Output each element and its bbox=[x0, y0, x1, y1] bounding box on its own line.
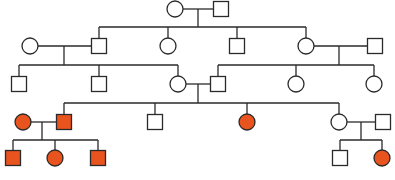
affected-female-iv-1 bbox=[15, 114, 31, 130]
affected-female-iv-4 bbox=[239, 114, 255, 130]
unaffected-male-iii-2 bbox=[92, 77, 107, 92]
affected-male-v-3 bbox=[91, 151, 106, 166]
affected-female-v-2 bbox=[47, 150, 63, 166]
unaffected-male-ii-6 bbox=[368, 39, 383, 54]
unaffected-female-ii-1 bbox=[22, 38, 38, 54]
unaffected-female-i-1 bbox=[167, 1, 183, 17]
unaffected-female-ii-5 bbox=[298, 38, 314, 54]
unaffected-female-iii-6 bbox=[366, 76, 382, 92]
unaffected-female-iii-5 bbox=[288, 76, 304, 92]
unaffected-female-ii-3 bbox=[160, 38, 176, 54]
unaffected-male-iv-3 bbox=[148, 115, 163, 130]
affected-male-iv-2 bbox=[57, 115, 72, 130]
unaffected-male-ii-2 bbox=[92, 39, 107, 54]
unaffected-male-v-4 bbox=[333, 151, 348, 166]
unaffected-female-iv-5 bbox=[331, 114, 347, 130]
unaffected-male-i-2 bbox=[214, 2, 229, 17]
pedigree-chart bbox=[0, 0, 395, 180]
unaffected-male-iii-1 bbox=[12, 77, 27, 92]
unaffected-male-iv-6 bbox=[376, 115, 391, 130]
affected-female-v-5 bbox=[374, 150, 390, 166]
unaffected-male-ii-4 bbox=[230, 39, 245, 54]
affected-male-v-1 bbox=[6, 151, 21, 166]
unaffected-female-iii-3 bbox=[170, 76, 186, 92]
unaffected-male-iii-4 bbox=[211, 77, 226, 92]
